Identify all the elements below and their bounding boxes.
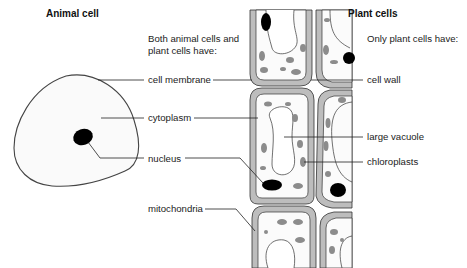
- shared-heading-line2: plant cells have:: [148, 45, 217, 56]
- shared-heading-line1: Both animal cells and: [148, 33, 239, 44]
- plant-nucleus: [261, 13, 271, 31]
- plant-cells-title: Plant cells: [348, 8, 397, 19]
- plant-only-heading: Only plant cells have:: [367, 33, 458, 44]
- label-nucleus: nucleus: [148, 153, 181, 164]
- label-cell-membrane: cell membrane: [148, 74, 211, 85]
- label-mitochondria: mitochondria: [148, 203, 203, 214]
- animal-cell-membrane: [14, 75, 139, 186]
- label-cytoplasm: cytoplasm: [148, 112, 191, 123]
- label-cell-wall: cell wall: [367, 74, 401, 85]
- label-large-vacuole: large vacuole: [367, 131, 424, 142]
- plant-cells: [250, 10, 355, 268]
- animal-cell: [14, 75, 139, 186]
- label-chloroplasts: chloroplasts: [367, 156, 418, 167]
- animal-cell-title: Animal cell: [46, 8, 99, 19]
